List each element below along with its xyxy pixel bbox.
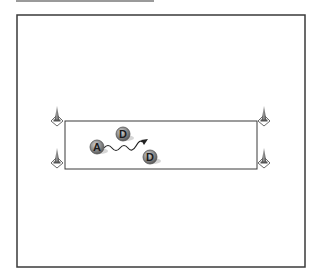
cone-icon — [258, 106, 270, 126]
cone-icon — [51, 148, 63, 168]
arrowhead-icon — [141, 139, 148, 145]
cone-icon — [51, 106, 63, 126]
outer-field — [17, 15, 305, 267]
svg-text:D: D — [119, 128, 127, 140]
drill-diagram: A D D — [0, 0, 322, 275]
player-defender-1: D — [116, 127, 134, 141]
dribble-path-icon — [104, 141, 142, 150]
player-defender-2: D — [143, 150, 161, 164]
svg-text:A: A — [93, 141, 101, 153]
cone-icon — [258, 148, 270, 168]
svg-text:D: D — [146, 151, 154, 163]
